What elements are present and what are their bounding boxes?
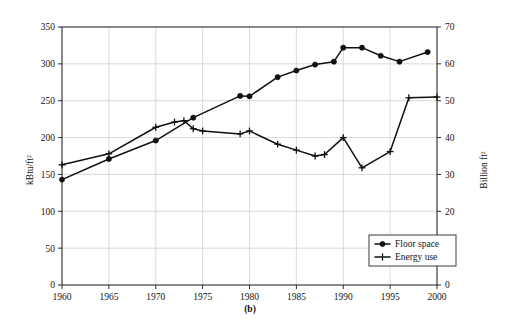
x-axis-tick-labels: 196019651970197519801985199019952000 bbox=[53, 292, 447, 302]
x-axis-tick-label: 1960 bbox=[53, 292, 72, 302]
y-axis-left-tick-label: 200 bbox=[41, 133, 56, 143]
y-axis-left-tick-label: 350 bbox=[41, 22, 56, 32]
data-point-marker bbox=[247, 94, 252, 99]
x-axis-tick-label: 1980 bbox=[240, 292, 259, 302]
y-axis-right-title: Billion ft² bbox=[479, 151, 489, 189]
data-point-marker bbox=[153, 138, 158, 143]
y-axis-right-tick-label: 30 bbox=[445, 170, 455, 180]
data-point-marker bbox=[378, 53, 383, 58]
x-axis-tick-label: 2000 bbox=[428, 292, 447, 302]
y-axis-left-tick-label: 100 bbox=[41, 207, 56, 217]
subfigure-label: (b) bbox=[244, 304, 256, 315]
data-point-marker bbox=[425, 49, 430, 54]
dual-axis-line-chart: 196019651970197519801985199019952000 050… bbox=[0, 0, 513, 328]
y-axis-left-title: kBtu/ft² bbox=[25, 155, 35, 185]
figure-panel: 196019651970197519801985199019952000 050… bbox=[0, 0, 513, 328]
y-axis-right-tick-label: 40 bbox=[445, 133, 455, 143]
data-point-marker bbox=[275, 75, 280, 80]
data-point-marker bbox=[313, 62, 318, 67]
y-axis-right-tick-label: 60 bbox=[445, 59, 455, 69]
legend-marker-dot bbox=[380, 241, 385, 246]
y-axis-left-tick-label: 0 bbox=[50, 280, 55, 290]
x-axis-tick-label: 1965 bbox=[99, 292, 118, 302]
x-axis-tick-label: 1970 bbox=[146, 292, 165, 302]
y-axis-right-tick-label: 50 bbox=[445, 96, 455, 106]
y-axis-left-tick-label: 150 bbox=[41, 170, 56, 180]
y-axis-left-tick-label: 300 bbox=[41, 59, 56, 69]
x-axis-tick-label: 1975 bbox=[193, 292, 212, 302]
x-axis-tick-label: 1990 bbox=[334, 292, 353, 302]
y-axis-right-tick-label: 70 bbox=[445, 22, 455, 32]
legend-item-label: Floor space bbox=[395, 239, 439, 249]
y-axis-right-tick-label: 20 bbox=[445, 207, 455, 217]
data-point-marker bbox=[294, 68, 299, 73]
x-axis-tick-label: 1995 bbox=[381, 292, 400, 302]
legend-item-label: Energy use bbox=[395, 252, 437, 262]
chart-legend[interactable]: Floor spaceEnergy use bbox=[369, 235, 456, 266]
data-point-marker bbox=[359, 45, 364, 50]
y-axis-right-tick-label: 0 bbox=[445, 280, 450, 290]
chart-background bbox=[0, 0, 513, 328]
y-axis-left-tick-label: 50 bbox=[46, 244, 56, 254]
data-point-marker bbox=[191, 115, 196, 120]
data-point-marker bbox=[59, 177, 64, 182]
y-axis-left-tick-label: 250 bbox=[41, 96, 56, 106]
data-point-marker bbox=[331, 59, 336, 64]
data-point-marker bbox=[341, 45, 346, 50]
x-axis-tick-label: 1985 bbox=[287, 292, 306, 302]
data-point-marker bbox=[397, 59, 402, 64]
data-point-marker bbox=[238, 93, 243, 98]
